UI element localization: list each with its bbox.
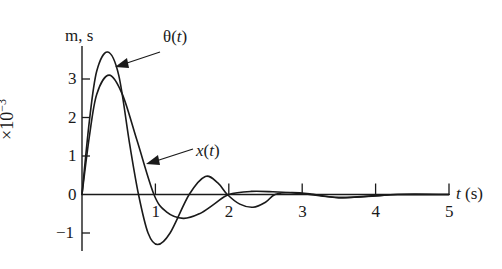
x-tick-label: 3 (298, 203, 307, 220)
y-scale-base: ×10 (0, 112, 17, 140)
theta-close: ) (182, 27, 188, 46)
x-curve (82, 75, 449, 218)
y-tick-label: 3 (68, 70, 77, 87)
y-unit-label: m, s (65, 27, 93, 44)
x-arrow-line (156, 149, 193, 161)
series-group (82, 52, 449, 245)
x-close: ) (214, 141, 220, 160)
x-arrowhead-icon (146, 155, 160, 165)
y-scale-exponent: −3 (0, 99, 9, 112)
theta-symbol: θ( (163, 27, 177, 46)
theta-curve (82, 52, 449, 245)
axes (82, 46, 449, 251)
x-tick-label: 1 (151, 203, 160, 220)
x-tick-label: 5 (445, 203, 454, 220)
y-tick-label: 1 (68, 147, 77, 164)
y-scale-label: ×10−3 (0, 99, 18, 140)
y-tick-label: −1 (56, 224, 74, 241)
y-tick-label: 2 (68, 109, 77, 126)
theta-arrowhead-icon (115, 58, 129, 68)
x-axis-label: t (s) (456, 185, 483, 202)
theta-arrow-line (124, 52, 160, 64)
x-symbol: x (196, 141, 204, 160)
x-tick-label: 4 (372, 203, 381, 220)
x-series-label: x(t) (196, 142, 220, 159)
x-tick-label: 2 (225, 203, 234, 220)
theta-series-label: θ(t) (163, 28, 187, 45)
y-tick-label: 0 (68, 186, 77, 203)
x-axis-unit: (s) (461, 184, 483, 203)
